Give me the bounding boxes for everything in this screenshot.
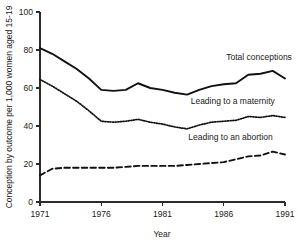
y-tick-label: 60 [24, 83, 34, 93]
series-annotation-label: Leading to an abortion [188, 132, 273, 142]
series-annotation-label: Leading to a maternity [191, 96, 276, 106]
x-tick-label: 1986 [214, 209, 233, 219]
x-tick-label: 1971 [31, 209, 50, 219]
series-annotation-label: Total conceptions [226, 52, 292, 62]
series-line-leading-to-an-abortion [40, 152, 285, 176]
y-axis-title: Conception by outcome per 1,000 women ag… [4, 5, 14, 208]
y-tick-label: 20 [24, 159, 34, 169]
y-tick-group: 020406080100 [19, 7, 40, 207]
x-tick-label: 1991 [276, 209, 295, 219]
y-tick-label: 100 [19, 7, 33, 17]
y-tick-label: 80 [24, 45, 34, 55]
y-tick-label: 40 [24, 121, 34, 131]
chart-container: 020406080100 19711976198119861991 Total … [0, 0, 298, 246]
line-chart: 020406080100 19711976198119861991 Total … [0, 0, 298, 246]
x-tick-group: 19711976198119861991 [31, 202, 295, 219]
series-annotations: Total conceptionsLeading to a maternityL… [188, 52, 292, 142]
x-tick-label: 1976 [92, 209, 111, 219]
y-axis: 020406080100 [19, 7, 40, 207]
x-axis: 19711976198119861991 [31, 202, 295, 219]
x-tick-label: 1981 [153, 209, 172, 219]
x-axis-title: Year [153, 229, 170, 239]
y-tick-label: 0 [28, 197, 33, 207]
